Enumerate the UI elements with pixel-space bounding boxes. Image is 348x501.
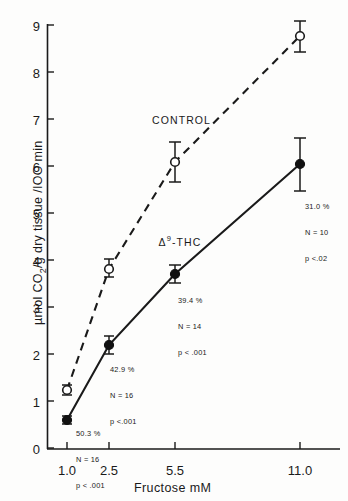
marker-control-2p5: [105, 265, 114, 274]
marker-control-5p5: [171, 158, 180, 167]
error-bars-control: [62, 21, 306, 395]
marker-thc-5p5: [171, 270, 180, 279]
markers-thc: [63, 160, 305, 425]
marker-control-11p0: [296, 32, 305, 41]
x-tick-marks: [67, 442, 300, 449]
plot-canvas: [0, 0, 348, 501]
series-line-control: [67, 36, 300, 390]
marker-thc-2p5: [105, 341, 114, 350]
error-bars-thc: [62, 138, 306, 424]
figure-panel: 9 8 7 6 5 4 3 2 1 0 1.0 2.5 5.5 11.0 Fru…: [0, 0, 348, 501]
markers-control: [63, 32, 305, 395]
y-tick-marks: [48, 25, 55, 448]
marker-control-1p0: [63, 386, 72, 395]
marker-thc-11p0: [296, 160, 305, 169]
marker-thc-1p0: [63, 416, 72, 425]
